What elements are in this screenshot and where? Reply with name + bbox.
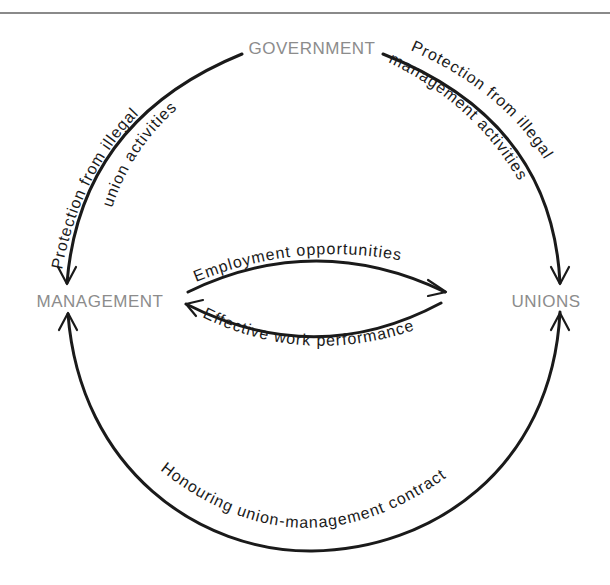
node-government: GOVERNMENT <box>249 39 376 58</box>
label-gov-to-management-line1: Protection from illegal <box>48 104 141 271</box>
label-honouring-contract: Honouring union-management contract <box>158 459 449 531</box>
relationship-diagram: GOVERNMENT MANAGEMENT UNIONS Protection … <box>0 0 610 585</box>
label-effective-work-performance: Effective work performance <box>201 304 417 348</box>
label-gov-to-unions-line1: Protection from illegal <box>409 37 557 162</box>
node-unions: UNIONS <box>511 292 580 311</box>
node-management: MANAGEMENT <box>37 292 164 311</box>
